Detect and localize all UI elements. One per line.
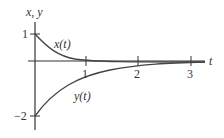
curve-label-y: y(t) — [73, 89, 91, 103]
curve-y-of-t — [35, 62, 205, 116]
chart-canvas: x, y t 1 2 3 1 −2 x(t) y(t) — [0, 0, 224, 138]
x-axis-label: t — [209, 54, 213, 68]
y-axis-label: x, y — [25, 5, 43, 19]
x-tick-label-3: 3 — [187, 67, 193, 81]
x-tick-label-1: 1 — [82, 67, 88, 81]
x-tick-label-2: 2 — [134, 67, 140, 81]
y-tick-label-1: 1 — [22, 27, 28, 41]
y-tick-label-minus2: −2 — [14, 109, 27, 123]
curve-label-x: x(t) — [53, 37, 71, 51]
